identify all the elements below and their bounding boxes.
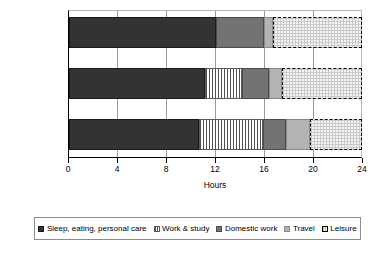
xtick-label-8: 8 — [151, 164, 181, 174]
xtick-label-0: 0 — [53, 164, 83, 174]
xtick-label-4: 4 — [102, 164, 132, 174]
segment-fulltime-travel[interactable] — [286, 119, 310, 150]
legend-label-work: Work & study — [162, 224, 209, 233]
xtick-mark-12 — [215, 158, 216, 163]
segment-retired-travel[interactable] — [264, 17, 273, 48]
sleep-swatch-icon — [38, 226, 44, 232]
xtick-label-16: 16 — [249, 164, 279, 174]
xtick-mark-16 — [264, 158, 265, 163]
legend-label-domestic: Domestic work — [225, 224, 277, 233]
xtick-mark-24 — [362, 158, 363, 163]
segment-fulltime-leisure[interactable] — [310, 119, 362, 150]
legend-item-travel[interactable]: Travel — [284, 224, 314, 233]
xtick-mark-20 — [313, 158, 314, 163]
segment-retired-domestic[interactable] — [216, 17, 264, 48]
segment-retired-sleep[interactable] — [69, 17, 216, 48]
travel-swatch-icon — [284, 226, 290, 232]
segment-all-leisure[interactable] — [282, 68, 362, 99]
bar-row-retired: Retired — [69, 17, 361, 48]
legend-item-work[interactable]: Work & study — [154, 224, 210, 233]
xtick-mark-8 — [166, 158, 167, 163]
plot-area: Retired All Full time work — [68, 10, 362, 158]
segment-fulltime-work[interactable] — [199, 119, 263, 150]
xtick-mark-0 — [68, 158, 69, 163]
segment-fulltime-sleep[interactable] — [69, 119, 199, 150]
segment-all-work[interactable] — [205, 68, 242, 99]
legend-label-leisure: Leisure — [330, 224, 356, 233]
xtick-mark-4 — [117, 158, 118, 163]
x-axis-title: Hours — [68, 180, 362, 190]
segment-all-domestic[interactable] — [242, 68, 269, 99]
xtick-label-24: 24 — [347, 164, 377, 174]
xtick-label-12: 12 — [200, 164, 230, 174]
legend-item-domestic[interactable]: Domestic work — [216, 224, 277, 233]
bar-row-full-time-work: Full time work — [69, 119, 361, 150]
chart-legend: Sleep, eating, personal care Work & stud… — [34, 217, 361, 240]
xtick-label-20: 20 — [298, 164, 328, 174]
segment-fulltime-domestic[interactable] — [263, 119, 286, 150]
stacked-bar-chart: Retired All Full time work — [0, 0, 392, 257]
leisure-swatch-icon — [322, 226, 328, 232]
legend-item-sleep[interactable]: Sleep, eating, personal care — [38, 224, 146, 233]
legend-label-travel: Travel — [293, 224, 315, 233]
legend-label-sleep: Sleep, eating, personal care — [47, 224, 147, 233]
bar-row-all: All — [69, 68, 361, 99]
legend-item-leisure[interactable]: Leisure — [322, 224, 357, 233]
segment-retired-leisure[interactable] — [273, 17, 362, 48]
domestic-swatch-icon — [216, 226, 222, 232]
segment-all-travel[interactable] — [269, 68, 282, 99]
segment-all-sleep[interactable] — [69, 68, 205, 99]
work-swatch-icon — [154, 226, 160, 232]
